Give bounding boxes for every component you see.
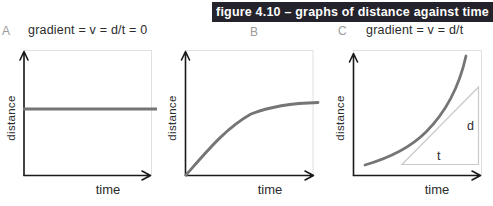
triangle-d-label: d bbox=[467, 120, 474, 133]
curve-steepening bbox=[365, 56, 466, 165]
graph-b-y-axis-label: distance bbox=[165, 78, 179, 158]
x-axis-arrow-c bbox=[354, 171, 481, 180]
y-axis-arrow-b bbox=[182, 52, 190, 176]
graph-c-y-axis-label: distance bbox=[333, 78, 347, 158]
graph-c-title: gradient = v = d/t bbox=[366, 24, 463, 37]
plot-frame-b bbox=[186, 51, 314, 176]
plot-frame-a bbox=[24, 51, 152, 176]
triangle-t-label: t bbox=[437, 150, 440, 163]
graph-a bbox=[20, 51, 157, 181]
x-axis-arrow-a bbox=[24, 171, 151, 180]
y-axis-arrow-c bbox=[350, 54, 358, 176]
curve-levelling-off bbox=[186, 103, 318, 176]
graph-b-x-axis-label: time bbox=[240, 183, 300, 197]
graph-a-y-axis-label: distance bbox=[4, 78, 18, 158]
figure-4-10: figure 4.10 – graphs of distance against… bbox=[0, 0, 493, 206]
graph-a-title: gradient = v = d/t = 0 bbox=[28, 24, 147, 37]
graph-b bbox=[182, 51, 319, 181]
graph-c-x-axis-label: time bbox=[407, 183, 467, 197]
graph-a-x-axis-label: time bbox=[78, 183, 138, 197]
y-axis-arrow-a bbox=[20, 52, 28, 176]
figure-caption-banner: figure 4.10 – graphs of distance against… bbox=[212, 2, 493, 22]
graph-c-label: C bbox=[338, 25, 347, 37]
graph-c bbox=[350, 51, 482, 181]
graph-b-label: B bbox=[250, 26, 258, 38]
graph-a-label: A bbox=[2, 25, 10, 37]
x-axis-arrow-b bbox=[186, 171, 314, 180]
